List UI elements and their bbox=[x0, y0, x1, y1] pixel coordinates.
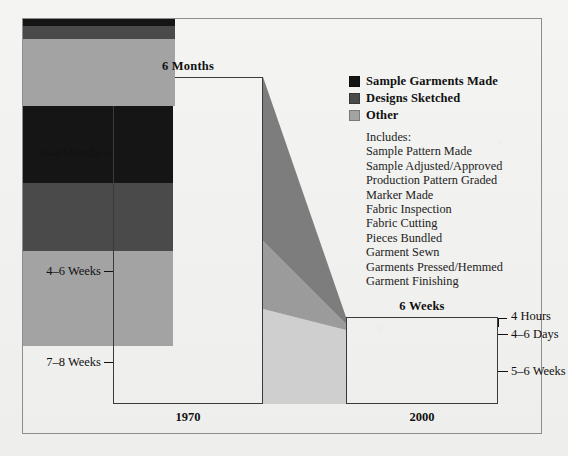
legend-label-designs-sketched: Designs Sketched bbox=[366, 91, 460, 106]
x-axis-label-1970: 1970 bbox=[113, 410, 263, 425]
right-axis-label-1-text: 4–6 Days bbox=[511, 327, 559, 341]
chart-frame: 6 Months 6 Weeks 1970 2000 3–4 Months 4–… bbox=[22, 18, 542, 434]
includes-heading: Includes: bbox=[366, 130, 559, 144]
includes-item: Garment Sewn bbox=[366, 245, 559, 259]
left-axis-label-2-text: 7–8 Weeks bbox=[46, 355, 101, 369]
includes-item: Sample Adjusted/Approved bbox=[366, 159, 559, 173]
tick-mark-icon bbox=[104, 271, 113, 272]
left-axis-label-2: 7–8 Weeks bbox=[46, 355, 113, 370]
legend-item-other[interactable]: Other bbox=[349, 108, 559, 123]
right-axis-label-0: 4 Hours bbox=[498, 309, 551, 324]
legend-label-sample-garments-made: Sample Garments Made bbox=[366, 74, 498, 89]
includes-item: Garment Finishing bbox=[366, 274, 559, 288]
bar-title-2000: 6 Weeks bbox=[346, 299, 498, 314]
left-axis-label-1-text: 4–6 Weeks bbox=[46, 264, 101, 278]
legend-includes-list: Includes: Sample Pattern Made Sample Adj… bbox=[366, 130, 559, 288]
includes-item: Production Pattern Graded bbox=[366, 173, 559, 187]
legend-swatch-dark-gray bbox=[349, 93, 360, 104]
left-axis-label-0-text: 3–4 Months bbox=[41, 146, 101, 160]
includes-item: Garments Pressed/Hemmed bbox=[366, 260, 559, 274]
left-axis-label-0: 3–4 Months bbox=[41, 146, 113, 161]
legend-swatch-light-gray bbox=[349, 110, 360, 121]
legend-label-other: Other bbox=[366, 108, 398, 123]
legend-swatch-black bbox=[349, 76, 360, 87]
legend: Sample Garments Made Designs Sketched Ot… bbox=[349, 74, 559, 288]
right-axis-label-2-text: 5–6 Weeks bbox=[511, 364, 566, 378]
right-axis-label-0-text: 4 Hours bbox=[511, 309, 551, 323]
leader-line-icon bbox=[498, 334, 508, 335]
right-axis-label-1: 4–6 Days bbox=[498, 327, 559, 342]
legend-item-sample-garments-made[interactable]: Sample Garments Made bbox=[349, 74, 559, 89]
includes-item: Fabric Inspection bbox=[366, 202, 559, 216]
chart-plot-area: 6 Months 6 Weeks 1970 2000 3–4 Months 4–… bbox=[23, 19, 541, 433]
tick-mark-icon bbox=[104, 362, 113, 363]
includes-item: Fabric Cutting bbox=[366, 216, 559, 230]
includes-item: Marker Made bbox=[366, 188, 559, 202]
leader-line-icon bbox=[498, 371, 508, 372]
includes-item: Pieces Bundled bbox=[366, 231, 559, 245]
tick-mark-icon bbox=[104, 153, 113, 154]
includes-item: Sample Pattern Made bbox=[366, 144, 559, 158]
left-axis-labels: 3–4 Months 4–6 Weeks 7–8 Weeks bbox=[23, 19, 113, 433]
right-axis-label-2: 5–6 Weeks bbox=[498, 364, 566, 379]
legend-item-designs-sketched[interactable]: Designs Sketched bbox=[349, 91, 559, 106]
x-axis-label-2000: 2000 bbox=[346, 410, 498, 425]
bar-title-1970: 6 Months bbox=[113, 59, 263, 74]
left-axis-label-1: 4–6 Weeks bbox=[46, 264, 113, 279]
